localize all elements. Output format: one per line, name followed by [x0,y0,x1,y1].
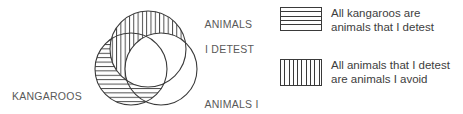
legend-swatch-vertical-stripes-icon [280,59,322,86]
legend-item-detest-avoid: All animals that I detest are animals I … [280,59,450,86]
legend-swatch-horizontal-stripes-icon [280,7,322,31]
legend-label-kangaroos-detest: All kangaroos are animals that I detest [331,7,434,34]
venn-label-kangaroos: KANGAROOS [12,90,82,103]
venn-diagram-area: KANGAROOS ANIMALS I DETEST ANIMALS I AVO… [0,0,270,114]
legend-label-detest-avoid: All animals that I detest are animals I … [331,59,450,86]
venn-diagram-figure: KANGAROOS ANIMALS I DETEST ANIMALS I AVO… [0,0,463,114]
legend-item-kangaroos-detest: All kangaroos are animals that I detest [280,7,434,34]
venn-label-avoid-line-1: ANIMALS I [204,98,258,110]
legend: All kangaroos are animals that I detest … [280,0,463,114]
venn-label-animals-i-avoid: ANIMALS I AVOID [186,85,250,114]
venn-label-detest-line-1: ANIMALS [204,18,252,30]
venn-label-detest-line-2: I DETEST [205,43,254,55]
venn-label-animals-i-detest: ANIMALS I DETEST [186,5,250,68]
